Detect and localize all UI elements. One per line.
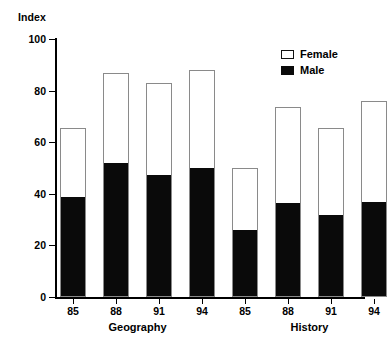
white-square-icon: [281, 50, 294, 59]
group-label-geography: Geography: [78, 321, 198, 333]
x-tick-mark: [374, 299, 375, 304]
bar-stack: [103, 73, 129, 297]
bar-stack: [146, 83, 172, 297]
y-tick-mark: [49, 142, 55, 143]
y-tick-label-wrap: 100: [14, 39, 46, 40]
x-tick-label: 94: [182, 306, 222, 318]
x-tick-label: 91: [139, 306, 179, 318]
legend-item-female: Female: [281, 47, 338, 62]
bar-stack: [232, 168, 258, 297]
black-square-icon: [281, 66, 294, 75]
x-tick-label: 94: [354, 306, 391, 318]
chart-legend: Female Male: [281, 47, 338, 79]
x-tick-mark: [202, 299, 203, 304]
x-axis-line: [55, 297, 365, 299]
y-tick-label-wrap: 40: [14, 194, 46, 195]
legend-label-male: Male: [300, 65, 324, 76]
bar-segment-male: [147, 175, 171, 296]
y-tick-label: 20: [16, 240, 46, 251]
bar-stack: [60, 128, 86, 297]
bar-segment-male: [362, 202, 386, 296]
bar-segment-male: [319, 215, 343, 296]
x-tick-label: 85: [225, 306, 265, 318]
group-label-history: History: [250, 321, 370, 333]
y-tick-label: 60: [16, 137, 46, 148]
y-tick-mark: [49, 91, 55, 92]
y-tick-label: 40: [16, 189, 46, 200]
y-tick-mark: [49, 245, 55, 246]
bar-segment-male: [190, 168, 214, 296]
x-tick-mark: [331, 299, 332, 304]
x-tick-label: 91: [311, 306, 351, 318]
y-tick-mark: [49, 297, 55, 298]
x-tick-label: 88: [96, 306, 136, 318]
y-tick-label-wrap: 20: [14, 245, 46, 246]
x-tick-label: 88: [268, 306, 308, 318]
bar-segment-male: [104, 163, 128, 296]
y-tick-mark: [49, 194, 55, 195]
x-tick-mark: [116, 299, 117, 304]
x-tick-mark: [73, 299, 74, 304]
y-tick-label-wrap: 80: [14, 91, 46, 92]
legend-label-female: Female: [300, 49, 338, 60]
y-tick-label: 100: [16, 34, 46, 45]
y-tick-label-wrap: 0: [14, 297, 46, 298]
bar-segment-male: [61, 197, 85, 296]
bar-stack: [275, 107, 301, 297]
x-tick-mark: [245, 299, 246, 304]
y-tick-label: 80: [16, 86, 46, 97]
y-tick-mark: [49, 39, 55, 40]
y-axis-title: Index: [18, 11, 46, 23]
bar-stack: [361, 101, 387, 297]
bar-segment-male: [276, 203, 300, 296]
bar-segment-male: [233, 230, 257, 296]
legend-item-male: Male: [281, 63, 338, 78]
bar-stack: [318, 128, 344, 297]
x-tick-label: 85: [53, 306, 93, 318]
x-tick-mark: [288, 299, 289, 304]
bar-stack: [189, 70, 215, 297]
y-tick-label: 0: [16, 292, 46, 303]
x-tick-mark: [159, 299, 160, 304]
y-tick-label-wrap: 60: [14, 142, 46, 143]
